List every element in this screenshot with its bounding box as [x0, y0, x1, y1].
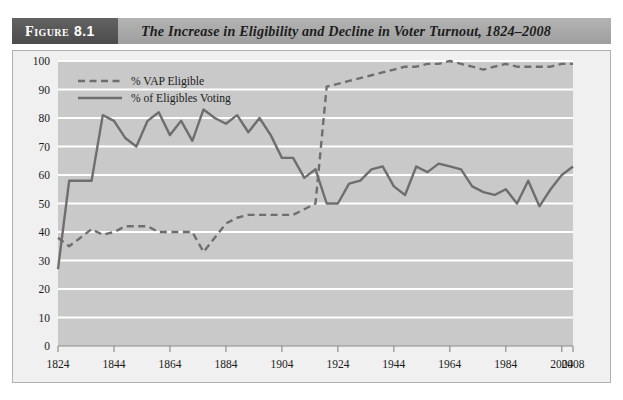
- y-axis-tick-label: 60: [39, 169, 51, 181]
- x-axis-tick-label: 1964: [438, 358, 461, 370]
- y-axis-tick-label: 0: [44, 340, 50, 352]
- y-axis-tick-label: 100: [33, 55, 51, 67]
- x-axis-tick-label: 1824: [47, 358, 70, 370]
- line-chart: 0102030405060708090100 18241844186418841…: [13, 51, 610, 382]
- x-axis-tick-label: 2008: [562, 358, 585, 370]
- figure-title: The Increase in Eligibility and Decline …: [118, 18, 611, 44]
- y-axis-tick-label: 80: [39, 112, 51, 124]
- y-axis-tick-label: 50: [39, 198, 51, 210]
- figure-tag-number: 8.1: [74, 24, 95, 38]
- figure-number-tag: Figure 8.1: [12, 18, 118, 44]
- figure-header-band: Figure 8.1 The Increase in Eligibility a…: [12, 18, 611, 44]
- y-axis-tick-label: 40: [39, 226, 51, 238]
- x-axis: 1824184418641884190419241944196419842004…: [47, 346, 585, 370]
- y-axis-tick-label: 10: [39, 312, 51, 324]
- y-axis-tick-label: 20: [39, 283, 51, 295]
- figure-tag-word: Figure: [25, 24, 69, 39]
- x-axis-tick-label: 1844: [102, 358, 125, 370]
- x-axis-tick-label: 1904: [270, 358, 293, 370]
- x-axis-tick-label: 1984: [494, 358, 517, 370]
- legend-label-2: % of Eligibles Voting: [131, 92, 231, 105]
- x-axis-tick-label: 1864: [158, 358, 181, 370]
- figure-container: Figure 8.1 The Increase in Eligibility a…: [0, 0, 623, 400]
- y-axis-tick-label: 30: [39, 255, 51, 267]
- y-axis-tick-labels: 0102030405060708090100: [33, 55, 51, 352]
- legend-label-1: % VAP Eligible: [131, 75, 204, 88]
- x-axis-tick-label: 1924: [326, 358, 349, 370]
- x-axis-tick-label: 1944: [382, 358, 405, 370]
- y-axis-tick-label: 90: [39, 84, 51, 96]
- x-axis-tick-label: 1884: [214, 358, 237, 370]
- y-axis-tick-label: 70: [39, 141, 51, 153]
- chart-frame: 0102030405060708090100 18241844186418841…: [12, 50, 611, 383]
